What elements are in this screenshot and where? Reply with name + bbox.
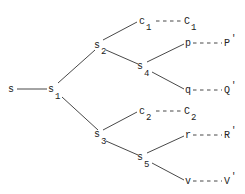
node-s3-subscript: 3	[101, 137, 106, 147]
node-c2-subscript: 2	[146, 113, 151, 123]
node-s: s	[8, 84, 14, 95]
node-p: p	[185, 38, 191, 49]
node-c2: c	[139, 106, 145, 117]
node-s1: s	[48, 84, 54, 95]
node-s5: s	[137, 152, 143, 163]
node-s2-subscript: 2	[101, 47, 106, 57]
edge-s1-s3	[62, 97, 98, 130]
node-C1-subscript: 1	[191, 23, 196, 33]
node-C2-subscript: 2	[191, 113, 196, 123]
node-P-prime-mark: '	[231, 34, 236, 44]
edge-s4-q	[152, 72, 184, 89]
node-s2: s	[94, 40, 100, 51]
node-s4: s	[137, 61, 143, 72]
node-s5-subscript: 5	[144, 160, 149, 170]
node-V-prime: V	[224, 176, 230, 187]
node-V-prime-mark: '	[231, 172, 236, 182]
node-Q-prime-mark: '	[231, 81, 236, 91]
edge-s2-c1	[103, 22, 137, 40]
node-c1: c	[139, 16, 145, 27]
node-P-prime: P	[224, 38, 230, 49]
node-r: r	[185, 130, 191, 141]
node-R-prime: R	[224, 130, 230, 141]
node-q: q	[185, 85, 191, 96]
node-s4-subscript: 4	[144, 69, 149, 79]
edge-s3-s5	[106, 141, 138, 155]
node-s1-subscript: 1	[55, 92, 60, 102]
edge-s2-s4	[106, 50, 138, 64]
tree-diagram: s s 1 s 2 s 3 c 1 s 4 c 2 s 5 p q r v C …	[0, 0, 245, 194]
edge-s1-s2	[58, 50, 95, 83]
node-Q-prime: Q	[224, 85, 230, 96]
node-R-prime-mark: '	[231, 126, 236, 136]
node-s3: s	[94, 129, 100, 140]
node-v: v	[185, 176, 191, 187]
edge-s5-r	[147, 136, 184, 153]
node-c1-subscript: 1	[146, 23, 151, 33]
node-C1: C	[184, 16, 190, 27]
edge-s3-c2	[103, 112, 137, 130]
edge-s5-v	[152, 163, 184, 180]
node-C2: C	[184, 106, 190, 117]
edge-s4-p	[147, 44, 184, 62]
